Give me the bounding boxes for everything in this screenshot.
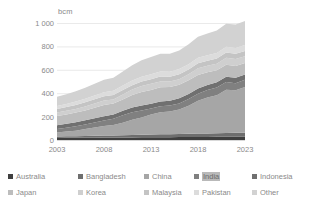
legend-swatch-icon xyxy=(144,174,149,179)
legend-label: Japan xyxy=(16,188,36,197)
legend-item-pakistan[interactable]: Pakistan xyxy=(194,188,231,197)
legend-row: JapanKoreaMalaysiaPakistanOther xyxy=(4,184,306,200)
legend-item-malaysia[interactable]: Malaysia xyxy=(144,188,182,197)
legend-label: China xyxy=(152,172,172,181)
plot-area: bcm 02004006008001 000 20032008201320182… xyxy=(0,0,310,165)
legend-item-indonesia[interactable]: Indonesia xyxy=(252,172,293,181)
x-tick-label: 2018 xyxy=(190,145,207,154)
legend-row: AustraliaBangladeshChinaIndiaIndonesia xyxy=(4,168,306,184)
legend-item-china[interactable]: China xyxy=(144,172,172,181)
legend-swatch-icon xyxy=(78,190,83,195)
legend-label: Bangladesh xyxy=(86,172,126,181)
stacked-area-chart: bcm 02004006008001 000 20032008201320182… xyxy=(0,0,310,204)
legend-label: Other xyxy=(260,188,279,197)
legend-swatch-icon xyxy=(144,190,149,195)
legend-label: Indonesia xyxy=(260,172,293,181)
legend-item-japan[interactable]: Japan xyxy=(8,188,36,197)
legend-item-other[interactable]: Other xyxy=(252,188,279,197)
legend-swatch-icon xyxy=(194,190,199,195)
legend-swatch-icon xyxy=(8,174,13,179)
legend-item-india[interactable]: India xyxy=(194,172,220,181)
legend-label: India xyxy=(202,172,220,181)
legend-label: Korea xyxy=(86,188,106,197)
x-tick-label: 2008 xyxy=(96,145,113,154)
x-tick-label: 2023 xyxy=(237,145,254,154)
plot-svg xyxy=(0,0,310,165)
legend-swatch-icon xyxy=(252,190,257,195)
legend-label: Australia xyxy=(16,172,45,181)
legend-label: Malaysia xyxy=(152,188,182,197)
legend-item-bangladesh[interactable]: Bangladesh xyxy=(78,172,126,181)
x-tick-label: 2003 xyxy=(49,145,66,154)
legend-item-australia[interactable]: Australia xyxy=(8,172,45,181)
chart-legend: AustraliaBangladeshChinaIndiaIndonesiaJa… xyxy=(0,166,310,204)
legend-swatch-icon xyxy=(194,174,199,179)
legend-swatch-icon xyxy=(8,190,13,195)
x-tick-label: 2013 xyxy=(143,145,160,154)
legend-swatch-icon xyxy=(252,174,257,179)
legend-item-korea[interactable]: Korea xyxy=(78,188,106,197)
legend-label: Pakistan xyxy=(202,188,231,197)
legend-swatch-icon xyxy=(78,174,83,179)
